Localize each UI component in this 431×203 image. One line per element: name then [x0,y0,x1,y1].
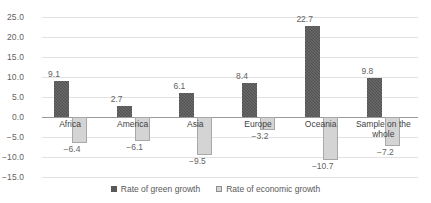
bar-value-label: 9.8 [344,67,390,76]
bar-group: 22.7−10.7Oceania [293,17,356,177]
bar-value-label: 6.1 [156,82,202,91]
y-axis-tick-label: 5.0 [0,93,24,102]
x-axis-category: Africa [42,117,105,141]
bar-green-growth[interactable] [54,81,69,117]
legend-item-green-growth[interactable]: Rate of green growth [111,184,200,194]
bar-value-label: −6.4 [49,145,95,154]
bar-green-growth[interactable] [117,106,132,117]
bar-value-label: −9.5 [174,157,220,166]
bar-green-growth[interactable] [305,26,320,117]
bar-green-growth[interactable] [179,93,194,117]
x-axis-category-label: Africa [36,119,104,129]
chart-legend: Rate of green growth Rate of economic gr… [0,184,431,194]
bar-group: 8.4−3.2Europe [230,17,293,177]
bar-value-label: 9.1 [31,70,77,79]
legend-label-economic-growth: Rate of economic growth [226,184,320,194]
y-axis-tick-label: 20.0 [0,33,24,42]
x-axis-category-label: Asia [161,119,229,129]
bar-value-label: 8.4 [219,72,265,81]
bar-group: 9.8−7.2Sample on the whole [355,17,418,177]
gridline [42,177,418,178]
chart-container: 25.020.015.010.05.00.0−5.0−10.0−15.0 9.1… [0,0,431,203]
x-axis-category: America [105,117,168,141]
y-axis-tick-label: −10.0 [0,153,24,162]
legend-item-economic-growth[interactable]: Rate of economic growth [216,184,320,194]
x-axis-category: Sample on the whole [355,117,418,141]
x-axis-category-label: America [99,119,167,129]
bar-value-label: 22.7 [282,15,328,24]
bar-green-growth[interactable] [367,78,382,117]
bar-green-growth[interactable] [242,83,257,117]
bar-group: 6.1−9.5Asia [167,17,230,177]
x-axis-category: Oceania [293,117,356,141]
bar-value-label: −6.1 [112,143,158,152]
legend-swatch-economic-growth [216,186,222,192]
plot-area: 25.020.015.010.05.00.0−5.0−10.0−15.0 9.1… [42,17,418,177]
bar-value-label: −10.7 [300,162,346,171]
bar-group: 2.7−6.1America [105,17,168,177]
y-axis-tick-label: 25.0 [0,13,24,22]
x-axis-category-label: Oceania [287,119,355,129]
bar-value-label: 2.7 [94,95,140,104]
x-axis-category-label: Sample on the whole [349,119,417,139]
legend-swatch-green-growth [111,186,117,192]
x-axis-category: Europe [230,117,293,141]
x-axis-category-label: Europe [224,119,292,129]
y-axis-tick-label: −15.0 [0,173,24,182]
y-axis-tick-label: 0.0 [0,113,24,122]
bar-value-label: −7.2 [362,148,408,157]
x-axis-category: Asia [167,117,230,141]
legend-label-green-growth: Rate of green growth [121,184,200,194]
y-axis-tick-label: 15.0 [0,53,24,62]
y-axis-tick-label: 10.0 [0,73,24,82]
y-axis-tick-label: −5.0 [0,133,24,142]
